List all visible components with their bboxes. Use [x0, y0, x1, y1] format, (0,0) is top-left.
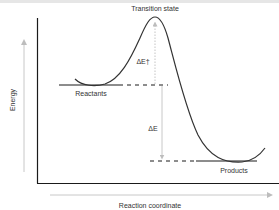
y-axis-label: Energy [9, 88, 17, 111]
reactants-label: Reactants [75, 90, 107, 97]
products-label: Products [220, 167, 248, 174]
axes [37, 18, 279, 184]
energy-diagram: Energy Reaction coordinate Reactants Pro… [0, 0, 279, 210]
energy-change-label: ΔE [148, 125, 158, 132]
x-axis-label: Reaction coordinate [119, 202, 181, 209]
transition-state-label: Transition state [131, 5, 179, 12]
activation-energy-label: ΔE† [136, 58, 149, 65]
